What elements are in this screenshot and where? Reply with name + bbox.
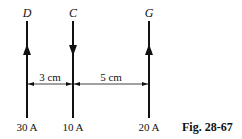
dimension-label-c-g: 5 cm	[100, 71, 122, 83]
wire-g-label: G	[145, 6, 154, 21]
wire-c-current: 10 A	[62, 121, 83, 133]
dimension-label-d-c: 3 cm	[39, 71, 61, 83]
arrow-down-icon	[69, 45, 77, 56]
wire-d-label: D	[23, 6, 32, 21]
arrow-up-icon	[23, 44, 31, 55]
wires-diagram	[0, 0, 242, 139]
dimension-arrow-icon	[28, 82, 34, 86]
wire-d-current: 30 A	[16, 121, 37, 133]
wire-g-current: 20 A	[138, 121, 159, 133]
dimension-arrow-icon	[74, 82, 80, 86]
dimension-arrow-icon	[142, 82, 148, 86]
figure-caption: Fig. 28-67	[182, 120, 233, 135]
wire-c-label: C	[69, 6, 77, 21]
arrow-up-icon	[145, 44, 153, 55]
dimension-arrow-icon	[66, 82, 72, 86]
